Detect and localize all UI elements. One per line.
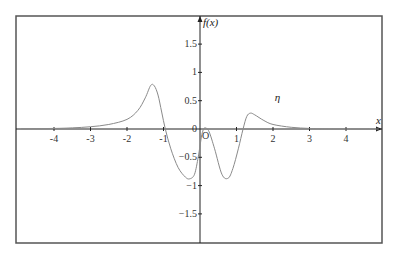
x-tick-label: -4 (50, 133, 58, 144)
x-tick-label: 2 (271, 133, 276, 144)
x-tick-label: -3 (86, 133, 94, 144)
y-tick-label: −1.5 (179, 208, 197, 219)
y-tick-label: 1.5 (185, 38, 198, 49)
x-axis-label: x (375, 114, 381, 126)
x-tick-label: 4 (344, 133, 349, 144)
series-annotation: η (275, 91, 280, 103)
y-axis-label: f(x) (203, 16, 219, 29)
y-axis-arrow-icon (198, 16, 203, 22)
y-tick-label: 1 (192, 66, 197, 77)
axis-labels: f(x)xη (203, 16, 381, 126)
x-tick-label: 3 (307, 133, 312, 144)
axes (16, 16, 382, 243)
y-tick-label: 0 (192, 123, 197, 134)
y-tick-label: −1 (186, 180, 197, 191)
chart-plot: -4-3-2-112341.510.50−0.5−1−1.5O f(x)xη (0, 0, 394, 257)
y-tick-label: −0.5 (179, 151, 197, 162)
x-tick-label: 1 (234, 133, 239, 144)
y-tick-label: 0.5 (185, 95, 198, 106)
x-tick-label: -2 (123, 133, 131, 144)
